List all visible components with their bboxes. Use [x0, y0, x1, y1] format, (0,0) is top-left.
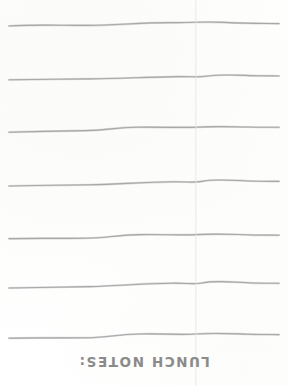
- ruled-lines-group: [0, 0, 288, 386]
- rule-line-5: [9, 234, 279, 239]
- rule-lines: [9, 22, 279, 338]
- rule-line-7: [9, 333, 279, 338]
- caption: LUNCH NOTES:: [0, 352, 288, 371]
- rule-line-2: [9, 75, 279, 80]
- rule-line-4: [9, 180, 279, 186]
- lunch-notes-label: LUNCH NOTES:: [78, 354, 210, 370]
- notepad-page: LUNCH NOTES:: [0, 0, 288, 386]
